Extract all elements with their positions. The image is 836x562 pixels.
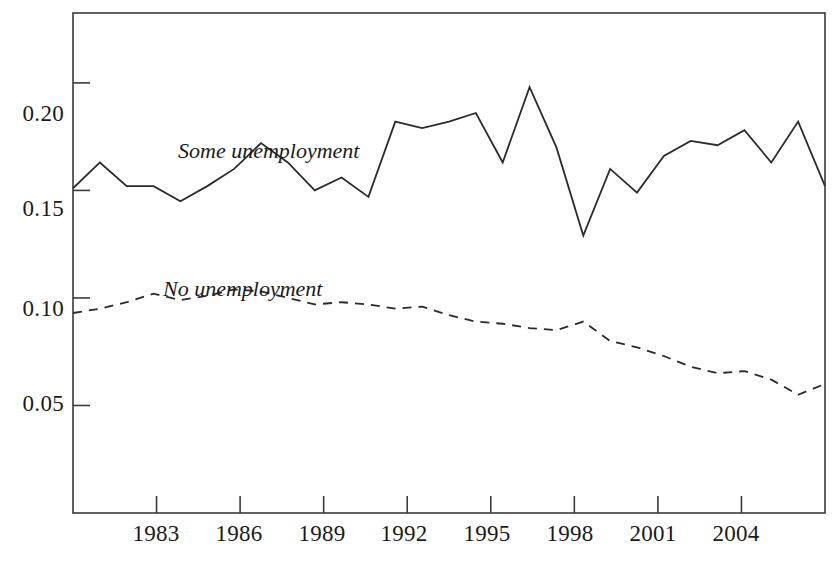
x-axis-tick-label-1998: 1998	[530, 521, 610, 547]
x-axis-tick-label-1989: 1989	[282, 521, 362, 547]
data-series-group	[73, 87, 825, 395]
x-axis-ticks	[157, 496, 742, 513]
series-label-no-unemployment: No unemployment	[163, 276, 322, 302]
x-axis-tick-label-2001: 2001	[613, 521, 693, 547]
x-axis-tick-label-1995: 1995	[447, 521, 527, 547]
chart-figure: 0.20 0.15 0.10 0.05 1983 1986 1989 1992 …	[0, 0, 836, 562]
x-axis-tick-label-1983: 1983	[116, 521, 196, 547]
y-axis-tick-label-005: 0.05	[4, 391, 64, 417]
y-axis-tick-label-010: 0.10	[4, 296, 64, 322]
y-axis-tick-label-015: 0.15	[4, 196, 64, 222]
y-axis-ticks	[73, 83, 90, 406]
plot-border	[73, 13, 825, 513]
x-axis-tick-label-2004: 2004	[696, 521, 776, 547]
x-axis-tick-label-1986: 1986	[199, 521, 279, 547]
y-axis-tick-label-020: 0.20	[4, 101, 64, 127]
axes-frame	[73, 13, 825, 513]
series-line-no-unemployment	[73, 289, 825, 394]
x-axis-tick-label-1992: 1992	[364, 521, 444, 547]
series-label-some-unemployment: Some unemployment	[178, 138, 359, 164]
line-chart-plot	[0, 0, 836, 562]
